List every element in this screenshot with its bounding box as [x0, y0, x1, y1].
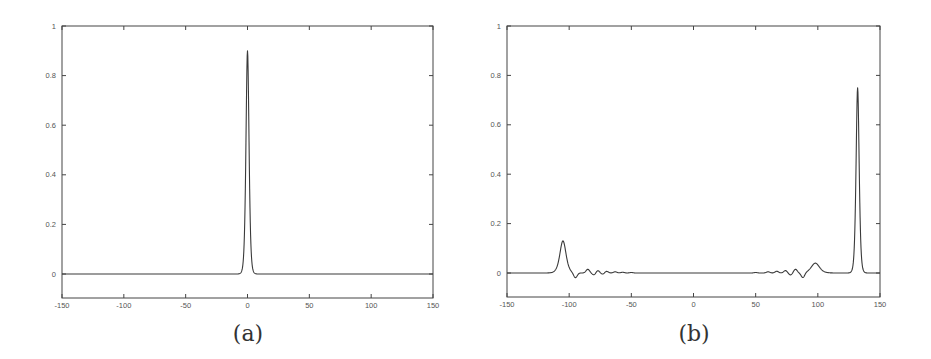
y-tick-label: 0.4: [491, 170, 501, 179]
y-tick-label: 0.6: [491, 120, 501, 129]
x-tick-label: -50: [626, 300, 637, 309]
y-tick-label: 0: [52, 270, 56, 279]
data-curve-b: [507, 88, 880, 278]
axis-ticks-b: [507, 26, 880, 297]
panel-a: -150-100-5005010015000.20.40.60.81 (a): [46, 22, 440, 347]
x-tick-label: 0: [245, 301, 249, 310]
x-tick-label: 50: [305, 301, 313, 310]
plot-frame-b: [507, 26, 880, 297]
x-tick-label: -100: [116, 301, 131, 310]
y-tick-label: 1: [497, 22, 501, 31]
x-tick-label: -100: [562, 300, 577, 309]
x-tick-label: -50: [180, 301, 191, 310]
x-tick-label: 50: [751, 300, 759, 309]
x-tick-label: 150: [874, 300, 887, 309]
y-tick-label: 0.2: [491, 219, 501, 228]
panel-label-a: (a): [233, 321, 263, 346]
y-tick-label: 0.4: [46, 170, 56, 179]
y-tick-label: 0: [497, 269, 501, 278]
x-tick-label: -150: [499, 300, 514, 309]
panel-b: -150-100-5005010015000.20.40.60.81 (b): [491, 22, 887, 347]
x-tick-label: 150: [427, 301, 440, 310]
y-tick-label: 0.2: [46, 220, 56, 229]
x-tick-label: 0: [691, 300, 695, 309]
x-tick-label: -150: [54, 301, 69, 310]
x-tick-label: 100: [812, 300, 825, 309]
figure: -150-100-5005010015000.20.40.60.81 (a) -…: [0, 0, 931, 359]
y-tick-label: 0.8: [46, 71, 56, 80]
y-tick-label: 1: [52, 22, 56, 31]
panel-label-b: (b): [678, 321, 709, 346]
y-tick-label: 0.6: [46, 121, 56, 130]
data-curve-a: [62, 51, 433, 274]
x-tick-label: 100: [365, 301, 378, 310]
y-tick-label: 0.8: [491, 71, 501, 80]
tick-labels-b: -150-100-5005010015000.20.40.60.81: [491, 22, 887, 310]
